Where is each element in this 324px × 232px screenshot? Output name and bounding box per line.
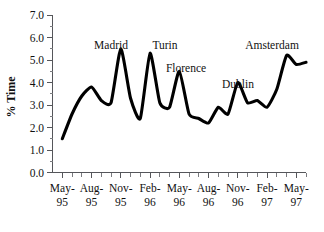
y-tick-label: 3.0	[30, 99, 45, 111]
y-tick-label: 4.0	[30, 77, 45, 89]
x-tick-label-year: 95	[57, 196, 69, 208]
y-tick-label: 5.0	[30, 54, 45, 66]
y-tick-label: 1.0	[30, 144, 45, 156]
x-tick-label-year: 96	[232, 196, 244, 208]
annotation-dublin: Dublin	[222, 78, 254, 90]
y-tick-label: 2.0	[30, 122, 45, 134]
x-tick-label-year: 96	[144, 196, 156, 208]
line-chart: 0.0 1.0 2.0 3.0 4.0 5.0 6.0 7.0 % Time	[0, 0, 324, 232]
chart-canvas: 0.0 1.0 2.0 3.0 4.0 5.0 6.0 7.0 % Time	[0, 0, 324, 232]
annotation-madrid: Madrid	[94, 39, 128, 51]
x-axis-ticks	[62, 173, 306, 179]
x-tick-label-month: Feb-	[256, 182, 277, 194]
y-tick-label: 7.0	[30, 9, 45, 21]
x-tick-label-year: 97	[291, 196, 303, 208]
y-axis-tick-labels: 0.0 1.0 2.0 3.0 4.0 5.0 6.0 7.0	[30, 9, 45, 179]
annotation-turin: Turin	[152, 39, 177, 51]
x-tick-label-year: 96	[174, 196, 186, 208]
annotation-florence: Florence	[166, 62, 206, 74]
x-tick-label-month: May-	[284, 182, 309, 195]
x-tick-label-month: Aug-	[197, 182, 221, 195]
x-tick-label-year: 95	[86, 196, 98, 208]
x-tick-label-month: Feb-	[139, 182, 160, 194]
x-tick-label-year: 97	[261, 196, 273, 208]
y-axis-title: % Time	[4, 76, 18, 118]
x-tick-label-month: Nov-	[109, 182, 133, 194]
x-tick-label-month: May-	[167, 182, 192, 195]
y-tick-label: 0.0	[30, 167, 45, 179]
annotation-amsterdam: Amsterdam	[245, 39, 299, 51]
x-axis-tick-labels: May- 95 Aug- 95 Nov- 95 Feb- 96 May- 96 …	[50, 182, 309, 208]
x-tick-label-year: 95	[115, 196, 127, 208]
x-tick-label-month: Nov-	[226, 182, 250, 194]
x-tick-label-month: Aug-	[80, 182, 104, 195]
y-tick-label: 6.0	[30, 32, 45, 44]
x-tick-label-month: May-	[50, 182, 75, 195]
x-tick-label-year: 96	[203, 196, 215, 208]
